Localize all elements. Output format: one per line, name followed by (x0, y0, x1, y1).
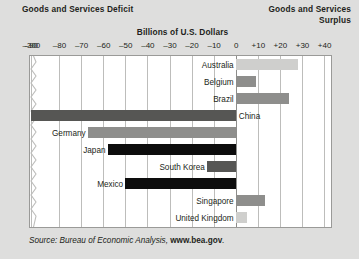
tick-label--80: –80 (53, 41, 66, 50)
bar-label-brazil: Brazil (213, 94, 233, 103)
bar-label-united-kingdom: United Kingdom (175, 213, 233, 222)
bar-row: Singapore (30, 192, 331, 209)
bar-row: South Korea (30, 158, 331, 175)
source-agency: Bureau of Economic Analysis, (57, 236, 170, 245)
bar-rows: AustraliaBelgiumBrazilChinaGermanyJapanS… (30, 56, 331, 227)
surplus-title: Goods and Services Surplus (269, 4, 351, 25)
bar-germany[interactable] (88, 127, 236, 139)
bar-japan[interactable] (108, 144, 236, 156)
bar-row: Belgium (30, 73, 331, 90)
bar-label-mexico: Mexico (97, 179, 123, 188)
deficit-title: Goods and Services Deficit (22, 4, 133, 14)
tick-label-10: +10 (252, 41, 266, 50)
tick-label--60: –60 (97, 41, 110, 50)
bar-row: Mexico (30, 175, 331, 192)
bar-brazil[interactable] (236, 93, 289, 105)
chart-plot-area: AustraliaBelgiumBrazilChinaGermanyJapanS… (29, 55, 332, 228)
source-prefix: Source: (29, 236, 57, 245)
source-note: Source: Bureau of Economic Analysis, www… (29, 236, 225, 245)
bar-row: China (30, 107, 331, 124)
tick-label-0: 0 (234, 41, 238, 50)
bar-row: Brazil (30, 90, 331, 107)
bar-label-australia: Australia (202, 60, 234, 69)
tick-label--50: –50 (119, 41, 132, 50)
bar-row: Australia (30, 56, 331, 73)
tick-label--20: –20 (185, 41, 198, 50)
bar-south-korea[interactable] (207, 161, 236, 173)
tick-label--40: –40 (141, 41, 154, 50)
bar-australia[interactable] (236, 59, 298, 71)
axis-title: Billions of U.S. Dollars (0, 27, 359, 37)
x-axis-tick-labels: –300–90–80–70–60–50–40–30–20–100+10+20+3… (0, 41, 359, 53)
bar-label-germany: Germany (52, 128, 86, 137)
bar-label-belgium: Belgium (204, 77, 234, 86)
bar-label-japan: Japan (83, 145, 105, 154)
bar-mexico[interactable] (125, 178, 235, 190)
tick-label--70: –70 (75, 41, 88, 50)
bar-united-kingdom[interactable] (236, 212, 247, 224)
bar-row: Japan (30, 141, 331, 158)
surplus-title-line2: Surplus (269, 15, 351, 26)
bar-row: Germany (30, 124, 331, 141)
tick-label--30: –30 (163, 41, 176, 50)
tick-label-40: +40 (318, 41, 332, 50)
source-url[interactable]: www.bea.gov (170, 236, 222, 245)
bar-row: United Kingdom (30, 209, 331, 226)
bar-belgium[interactable] (236, 76, 256, 88)
tick-label--10: –10 (207, 41, 220, 50)
surplus-title-line1: Goods and Services (269, 4, 351, 15)
tick-label-30: +30 (296, 41, 310, 50)
source-suffix: . (222, 236, 224, 245)
bar-label-china: China (239, 111, 260, 120)
tick-label--90: –90 (25, 41, 38, 50)
tick-label-20: +20 (274, 41, 288, 50)
bar-label-south-korea: South Korea (159, 162, 205, 171)
bar-label-singapore: Singapore (196, 196, 233, 205)
bar-china[interactable] (31, 110, 236, 122)
bar-singapore[interactable] (236, 195, 265, 207)
